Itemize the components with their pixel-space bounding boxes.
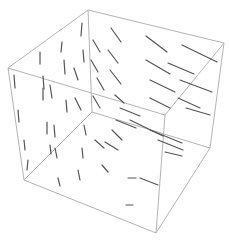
- vector-segment: [97, 78, 104, 90]
- box-edge: [24, 112, 92, 180]
- vector-segment: [110, 70, 121, 84]
- vector-segment: [93, 96, 100, 108]
- vector-segment: [61, 42, 62, 52]
- vector-segment: [146, 36, 167, 52]
- vector-segment: [82, 148, 83, 158]
- box-edge: [88, 10, 224, 43]
- vector-segment: [178, 98, 200, 108]
- vector-segment: [111, 28, 121, 42]
- vector-segment: [43, 76, 44, 89]
- vector-segment: [146, 60, 170, 74]
- vector-segment: [83, 50, 84, 62]
- vector-segment: [66, 100, 67, 112]
- vector-segment: [91, 60, 98, 72]
- vector-segment: [102, 165, 108, 172]
- vector-segment: [84, 125, 86, 135]
- vector-segment: [54, 125, 55, 137]
- bounding-box: [8, 10, 224, 233]
- vector-segment: [95, 140, 104, 148]
- box-edge: [8, 68, 165, 115]
- vector-segment: [74, 68, 78, 80]
- vector-segment: [150, 80, 175, 92]
- vector-segment: [50, 85, 52, 98]
- vector-segment: [78, 170, 80, 180]
- box-edge: [8, 68, 24, 180]
- box-edge: [165, 43, 224, 115]
- box-edge: [24, 180, 156, 233]
- vector-segment: [165, 152, 182, 156]
- box-edge: [156, 148, 210, 233]
- vector-segment: [50, 145, 51, 154]
- vector-segment: [108, 50, 118, 63]
- box-edge: [8, 10, 88, 68]
- vector-segment: [140, 178, 158, 185]
- vector-segment: [75, 98, 81, 110]
- vector-segment: [182, 45, 217, 62]
- vector-segment: [81, 23, 82, 36]
- vector-segment: [105, 142, 118, 150]
- box-edge: [210, 43, 224, 148]
- vector-segment: [24, 140, 25, 150]
- vector-segment: [14, 75, 15, 88]
- vector-arrows: [14, 23, 217, 205]
- vector-segment: [55, 148, 57, 158]
- vector-segment: [58, 178, 60, 186]
- vector-segment: [27, 160, 28, 170]
- vector-segment: [112, 130, 122, 140]
- vector-segment: [18, 110, 19, 122]
- vector-field-plot: [0, 0, 229, 241]
- vector-segment: [168, 63, 194, 74]
- vector-segment: [64, 60, 65, 74]
- vector-segment: [186, 108, 210, 115]
- vector-segment: [93, 40, 100, 52]
- vector-segment: [150, 98, 170, 108]
- vector-segment: [120, 108, 140, 116]
